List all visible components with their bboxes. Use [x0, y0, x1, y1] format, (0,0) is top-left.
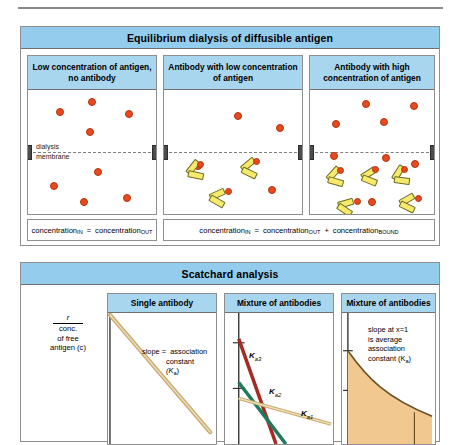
scatchard-panel-mixture-average: Mixture of antibodies slope at x=1 is av…	[341, 293, 436, 445]
y-axis-denominator-line3: antigen (c)	[31, 343, 105, 352]
y-axis-denominator-line2: of free	[31, 334, 105, 343]
scatchard-y-axis-label: r conc. of free antigen (c)	[31, 313, 105, 353]
antigen-dot	[380, 118, 388, 126]
scatchard-panel-0-plot: slope = association constant (Ka)	[108, 313, 216, 444]
note0-line1: slope =	[142, 347, 166, 356]
antigen-dot	[56, 108, 64, 116]
y-axis-denominator-line1: conc.	[31, 324, 105, 333]
membrane-clamp-right-icon	[152, 145, 156, 160]
membrane-clamp-right-icon	[430, 145, 434, 160]
note0-line2: association	[170, 347, 207, 356]
dialysis-panel-antibody-high-antigen: Antibody with high concentration of anti…	[309, 55, 435, 215]
curve-label-Ka1: Ka1	[301, 409, 313, 420]
dialysis-panel-0-title: Low concentration of antigen, no antibod…	[28, 56, 156, 90]
eq0-lhs-sub: IN	[77, 229, 83, 235]
curve-label-Ka2: Ka2	[269, 387, 281, 398]
equation-in-equals-out: concentrationIN = concentrationOUT	[27, 219, 157, 241]
antigen-dot	[362, 100, 370, 108]
scatchard-panel-1-plot: Ka3 Ka2 Ka1	[225, 313, 333, 444]
antigen-dot	[330, 152, 338, 160]
membrane-label-membrane: membrane	[36, 153, 69, 161]
antigen-dot	[50, 182, 58, 190]
curve-Ka1-highlight	[239, 398, 331, 424]
antigen-dot	[94, 168, 102, 176]
curve-label-Ka3: Ka3	[249, 351, 261, 362]
single-antibody-slope-note: slope = association constant (Ka)	[142, 347, 207, 378]
dialysis-panel-2-title: Antibody with high concentration of anti…	[310, 56, 434, 90]
antigen-dot	[88, 98, 96, 106]
scatchard-panel-2-title: Mixture of antibodies	[342, 294, 435, 313]
eq1-rhs: concentration	[263, 226, 309, 235]
equation-in-equals-out-plus-bound: concentrationIN = concentrationOUT + con…	[163, 219, 435, 241]
antigen-dot	[80, 198, 88, 206]
scatchard-section-title: Scatchard analysis	[21, 263, 439, 285]
eq0-rhs: concentration	[95, 226, 141, 235]
dialysis-panel-1-chamber	[164, 90, 302, 214]
eq0-lhs: concentration	[31, 226, 77, 235]
eq1-lhs-sub: IN	[245, 229, 251, 235]
antigen-dot	[234, 112, 242, 120]
eq1-extra: concentration	[333, 226, 379, 235]
membrane-clamp-left-icon	[164, 145, 168, 160]
note2-line2: is average	[368, 335, 411, 345]
top-divider-rule	[18, 7, 443, 9]
dialysis-panel-2-chamber	[310, 90, 434, 214]
eq1-rhs-sub: OUT	[309, 229, 321, 235]
eq0-op: =	[83, 226, 95, 235]
antigen-dot	[368, 198, 376, 206]
antigen-dot	[276, 124, 284, 132]
eq1-extra-op: +	[320, 226, 332, 235]
note2-line4: constant (K	[368, 354, 405, 363]
scatchard-panel-single-antibody: Single antibody slope = association cons…	[107, 293, 217, 445]
scatchard-panel-0-title: Single antibody	[108, 294, 216, 313]
dialysis-panel-low-antigen-no-antibody: Low concentration of antigen, no antibod…	[27, 55, 157, 215]
mixture-multiline-chart	[225, 313, 333, 444]
scatchard-panel-2-plot: slope at x=1 is average association cons…	[342, 313, 435, 444]
antigen-dot	[125, 110, 133, 118]
dialysis-membrane-line	[164, 152, 302, 153]
membrane-clamp-left-icon	[310, 145, 314, 160]
eq1-op: =	[251, 226, 263, 235]
equilibrium-dialysis-figure: Equilibrium dialysis of diffusible antig…	[20, 26, 440, 246]
dialysis-panel-0-chamber: dialysis membrane	[28, 90, 156, 214]
average-constant-note: slope at x=1 is average association cons…	[368, 325, 411, 366]
scatchard-panel-mixture-multiline: Mixture of antibodies Ka3 Ka2 Ka1	[224, 293, 334, 445]
dialysis-panel-1-title: Antibody with low concentration of antig…	[164, 56, 302, 90]
antigen-dot	[86, 128, 94, 136]
dialysis-membrane-line	[310, 152, 434, 153]
antigen-dot	[410, 102, 418, 110]
note2-line3: association	[368, 344, 411, 354]
membrane-clamp-left-icon	[28, 145, 32, 160]
scatchard-analysis-figure: Scatchard analysis r conc. of free antig…	[20, 262, 440, 442]
scatchard-panel-1-title: Mixture of antibodies	[225, 294, 333, 313]
eq1-extra-sub: BOUND	[378, 229, 398, 235]
dialysis-section-title: Equilibrium dialysis of diffusible antig…	[21, 27, 439, 49]
membrane-label-dialysis: dialysis	[36, 143, 59, 151]
antigen-dot	[268, 186, 276, 194]
note0-line5: )	[177, 366, 179, 375]
note2-line1: slope at x=1	[368, 325, 411, 335]
antigen-dot	[382, 154, 390, 162]
antigen-dot	[332, 120, 340, 128]
membrane-clamp-right-icon	[298, 145, 302, 160]
eq0-rhs-sub: OUT	[141, 229, 153, 235]
eq1-lhs: concentration	[199, 226, 245, 235]
dialysis-panel-antibody-low-antigen: Antibody with low concentration of antig…	[163, 55, 303, 215]
antigen-dot	[123, 194, 131, 202]
note2-line5: )	[409, 354, 411, 363]
single-antibody-chart	[108, 313, 216, 444]
y-axis-numerator: r	[53, 313, 84, 324]
antigen-dot	[411, 160, 419, 168]
note0-line3: constant	[166, 357, 194, 366]
